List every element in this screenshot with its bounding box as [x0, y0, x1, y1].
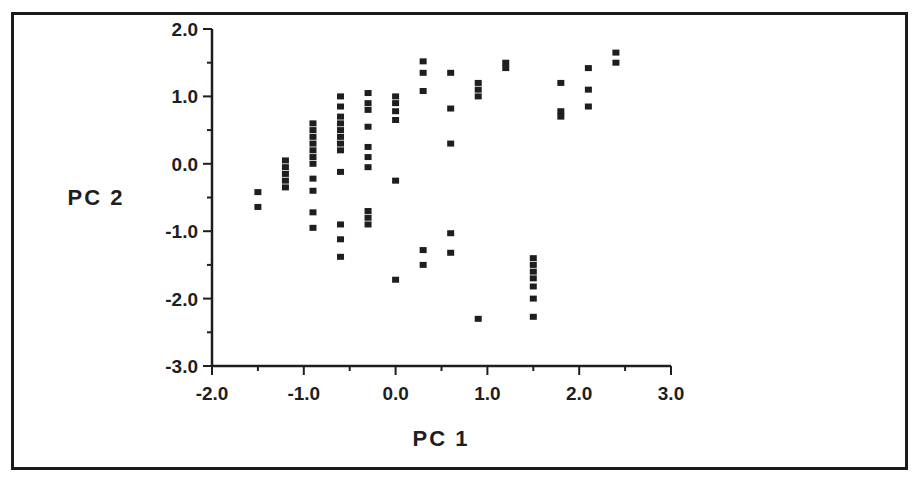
x-tick-label: -2.0 — [196, 383, 229, 404]
data-point — [365, 124, 372, 130]
x-tick-label: -1.0 — [287, 383, 320, 404]
data-point — [557, 114, 564, 120]
data-point — [365, 215, 372, 221]
data-point — [282, 171, 289, 177]
data-point — [309, 141, 316, 147]
data-point — [392, 100, 399, 106]
data-point — [337, 93, 344, 99]
data-point — [309, 147, 316, 153]
data-point — [585, 87, 592, 93]
data-point — [557, 80, 564, 86]
data-point — [392, 108, 399, 114]
data-point — [530, 275, 537, 281]
data-point — [365, 221, 372, 227]
data-point — [420, 262, 427, 268]
data-point — [337, 114, 344, 120]
data-point — [337, 134, 344, 140]
data-point — [392, 277, 399, 283]
x-tick-label: 2.0 — [566, 383, 592, 404]
data-point — [337, 127, 344, 133]
data-point — [337, 147, 344, 153]
y-tick-label: -2.0 — [165, 289, 198, 310]
x-axis-title: PC 1 — [413, 426, 470, 451]
data-point — [254, 204, 261, 210]
x-tick-label: 3.0 — [658, 383, 684, 404]
data-point — [337, 221, 344, 227]
data-point — [447, 70, 454, 76]
data-point — [475, 87, 482, 93]
data-point — [309, 134, 316, 140]
data-point — [309, 209, 316, 215]
data-point — [420, 70, 427, 76]
y-tick-label: 0.0 — [172, 154, 198, 175]
data-point — [309, 120, 316, 126]
data-point — [309, 127, 316, 133]
data-point — [392, 93, 399, 99]
data-point — [612, 50, 619, 56]
data-points — [254, 50, 619, 322]
data-point — [337, 254, 344, 260]
y-axis-title: PC 2 — [68, 185, 125, 210]
x-tick-label: 0.0 — [382, 383, 408, 404]
data-point — [309, 176, 316, 182]
data-point — [282, 184, 289, 190]
data-point — [309, 188, 316, 194]
data-point — [585, 104, 592, 110]
data-point — [420, 247, 427, 253]
data-point — [309, 154, 316, 160]
data-point — [530, 262, 537, 268]
data-point — [557, 108, 564, 114]
axes — [203, 29, 671, 375]
data-point — [337, 236, 344, 242]
data-point — [447, 106, 454, 112]
data-point — [530, 269, 537, 275]
scatter-plot: -2.0-1.00.01.02.03.0 2.01.00.0-1.0-2.0-3… — [0, 0, 915, 481]
data-point — [447, 230, 454, 236]
data-point — [420, 58, 427, 64]
data-point — [337, 141, 344, 147]
data-point — [392, 117, 399, 123]
data-point — [502, 65, 509, 71]
data-point — [475, 80, 482, 86]
data-point — [392, 178, 399, 184]
data-point — [475, 316, 482, 322]
data-point — [282, 164, 289, 170]
y-tick-label: -3.0 — [165, 356, 198, 377]
data-point — [282, 157, 289, 163]
data-point — [530, 314, 537, 320]
data-point — [365, 107, 372, 113]
data-point — [365, 90, 372, 96]
data-point — [365, 144, 372, 150]
data-point — [337, 169, 344, 175]
data-point — [254, 189, 261, 195]
data-point — [585, 65, 592, 71]
data-point — [612, 60, 619, 66]
data-point — [530, 283, 537, 289]
data-point — [309, 161, 316, 167]
data-point — [530, 255, 537, 261]
data-point — [309, 225, 316, 231]
data-point — [502, 60, 509, 66]
data-point — [365, 208, 372, 214]
x-tick-label: 1.0 — [474, 383, 500, 404]
data-point — [337, 104, 344, 110]
data-point — [447, 250, 454, 256]
data-point — [420, 88, 427, 94]
y-axis-tick-labels: 2.01.00.0-1.0-2.0-3.0 — [165, 19, 198, 377]
data-point — [475, 93, 482, 99]
data-point — [447, 141, 454, 147]
data-point — [282, 178, 289, 184]
data-point — [530, 296, 537, 302]
y-tick-label: 2.0 — [172, 19, 198, 40]
data-point — [365, 100, 372, 106]
data-point — [337, 120, 344, 126]
data-point — [365, 164, 372, 170]
data-point — [365, 154, 372, 160]
x-axis-tick-labels: -2.0-1.00.01.02.03.0 — [196, 383, 685, 404]
y-tick-label: 1.0 — [172, 86, 198, 107]
y-tick-label: -1.0 — [165, 221, 198, 242]
